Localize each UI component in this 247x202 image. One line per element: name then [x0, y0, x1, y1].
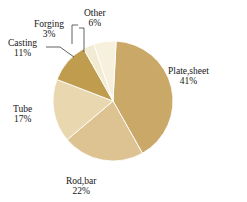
pie-label-casting-name: Casting [8, 38, 37, 48]
pie-label-plate-sheet-name: Plate,sheet [168, 66, 209, 76]
pie-label-casting: Casting 11% [8, 38, 37, 59]
pie-label-rod-bar: Rod,bar 22% [66, 176, 96, 197]
pie-chart-figure: Plate,sheet 41% Rod,bar 22% Tube 17% Cas… [0, 0, 247, 202]
leader-line-casting [46, 47, 74, 57]
pie-label-forging-name: Forging [34, 19, 64, 29]
pie-label-forging-value: 3% [34, 29, 64, 39]
pie-label-other: Other 6% [84, 8, 106, 29]
pie-slice-group [53, 41, 173, 161]
pie-label-rod-bar-name: Rod,bar [66, 176, 96, 186]
pie-label-other-name: Other [84, 8, 106, 18]
pie-label-tube-value: 17% [13, 114, 32, 124]
pie-label-casting-value: 11% [8, 48, 37, 58]
pie-label-tube: Tube 17% [13, 104, 32, 125]
pie-label-forging: Forging 3% [34, 19, 64, 40]
leader-line-other [72, 25, 78, 44]
pie-label-tube-name: Tube [13, 104, 32, 114]
pie-label-plate-sheet-value: 41% [168, 76, 209, 86]
pie-label-plate-sheet: Plate,sheet 41% [168, 66, 209, 87]
pie-label-other-value: 6% [84, 18, 106, 28]
pie-label-rod-bar-value: 22% [66, 186, 96, 196]
